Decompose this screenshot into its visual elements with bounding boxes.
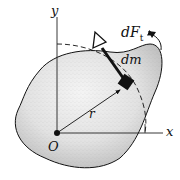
- force-label-main: dF: [121, 24, 140, 40]
- force-label-subscript: t: [140, 33, 144, 43]
- mass-element-label: dm: [121, 53, 142, 66]
- y-axis-label: y: [51, 4, 58, 17]
- diagram-svg: [0, 0, 180, 180]
- force-arrow-head: [93, 32, 106, 48]
- rotation-arrow-head: [148, 31, 156, 38]
- radius-label: r: [89, 108, 95, 120]
- rigid-body-diagram: y x O r dm dFt: [0, 0, 180, 180]
- origin-label: O: [48, 140, 59, 153]
- x-axis-label: x: [166, 125, 173, 138]
- force-label: dFt: [121, 25, 143, 43]
